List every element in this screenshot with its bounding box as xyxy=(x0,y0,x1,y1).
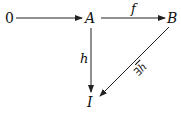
node-I: I xyxy=(87,95,93,109)
edge-label-h: h xyxy=(80,52,88,65)
edge-label-f: f xyxy=(131,2,136,15)
node-B: B xyxy=(167,11,177,25)
node-zero: 0 xyxy=(5,11,14,25)
node-A: A xyxy=(85,11,95,25)
arrow-B-to-I xyxy=(100,27,169,96)
